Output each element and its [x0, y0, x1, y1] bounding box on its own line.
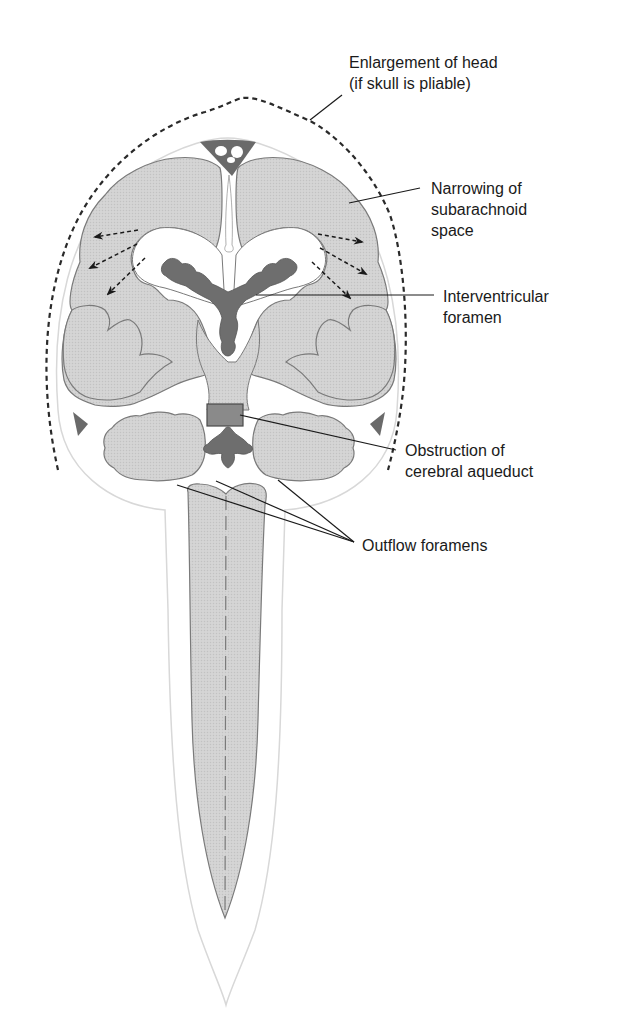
- label-line: foramen: [443, 307, 549, 328]
- arachnoid-granulation: [231, 146, 243, 158]
- label-narrowing-subarachnoid: Narrowing of subarachnoid space: [431, 178, 527, 241]
- label-line: Outflow foramens: [362, 535, 487, 556]
- label-obstruction-aqueduct: Obstruction of cerebral aqueduct: [405, 440, 533, 482]
- label-line: Narrowing of: [431, 178, 527, 199]
- label-enlargement-of-head: Enlargement of head (if skull is pliable…: [349, 52, 498, 94]
- label-interventricular-foramen: Interventricular foramen: [443, 286, 549, 328]
- label-outflow-foramens: Outflow foramens: [362, 535, 487, 556]
- label-line: space: [431, 220, 527, 241]
- hydrocephalus-diagram: [0, 0, 618, 1031]
- left-cerebellum: [104, 412, 205, 481]
- label-line: Obstruction of: [405, 440, 533, 461]
- aqueduct-obstruction: [207, 404, 243, 426]
- label-line: cerebral aqueduct: [405, 461, 533, 482]
- label-line: subarachnoid: [431, 199, 527, 220]
- label-line: (if skull is pliable): [349, 73, 498, 94]
- right-cerebellum: [253, 412, 354, 481]
- label-line: Enlargement of head: [349, 52, 498, 73]
- arachnoid-granulation: [215, 146, 227, 156]
- leader-enlargement: [310, 95, 342, 120]
- label-line: Interventricular: [443, 286, 549, 307]
- arachnoid-granulation: [227, 157, 235, 163]
